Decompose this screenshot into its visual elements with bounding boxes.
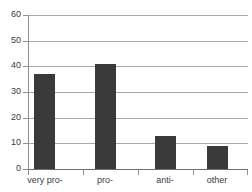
bar-anti	[155, 136, 176, 169]
bar-other	[207, 146, 228, 169]
x-axis-label-anti: anti-	[137, 176, 193, 186]
y-tick-20	[23, 118, 28, 119]
x-axis-label-very-pro: very pro-	[17, 176, 73, 186]
y-tick-10	[23, 143, 28, 144]
gridline-10	[28, 143, 248, 144]
y-axis-label-60: 60	[0, 10, 21, 19]
x-axis-label-pro: pro-	[77, 176, 133, 186]
bar-pro	[95, 64, 116, 169]
gridline-30	[28, 92, 248, 93]
y-axis-label-0: 0	[0, 164, 21, 173]
y-tick-60	[23, 15, 28, 16]
x-axis-label-other: other	[189, 176, 245, 186]
y-axis-label-10: 10	[0, 138, 21, 147]
gridline-20	[28, 118, 248, 119]
y-axis-line	[28, 15, 29, 170]
y-tick-30	[23, 92, 28, 93]
bar-very-pro	[34, 74, 55, 169]
y-axis-label-40: 40	[0, 61, 21, 70]
y-tick-40	[23, 66, 28, 67]
y-axis-label-20: 20	[0, 113, 21, 122]
x-tick-4	[247, 170, 248, 175]
gridline-60	[28, 15, 248, 16]
x-tick-1	[83, 170, 84, 175]
bar-chart: 60 50 40 30 20 10 0 very pro- pro- anti-…	[0, 0, 252, 192]
x-tick-2	[138, 170, 139, 175]
gridline-50	[28, 41, 248, 42]
x-tick-3	[193, 170, 194, 175]
y-axis-label-50: 50	[0, 36, 21, 45]
gridline-40	[28, 66, 248, 67]
y-tick-50	[23, 41, 28, 42]
y-axis-label-30: 30	[0, 87, 21, 96]
